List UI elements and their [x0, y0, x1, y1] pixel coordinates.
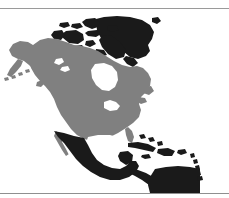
frame-bottom-rule: [0, 193, 229, 194]
northern-south-america-shape: [148, 166, 200, 193]
map-canvas: [0, 9, 229, 193]
north-america-map: [0, 9, 229, 193]
figure-root: [0, 0, 229, 198]
